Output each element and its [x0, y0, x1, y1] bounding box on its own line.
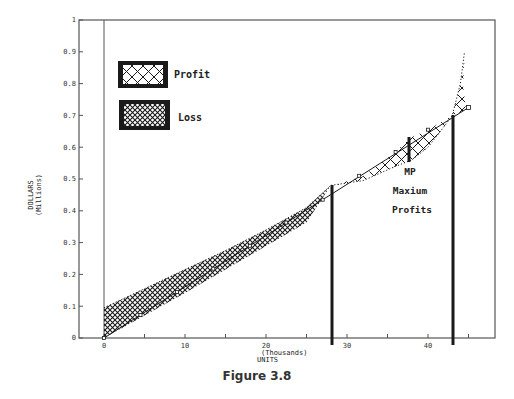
y-tick-label: 0.2 — [63, 271, 76, 279]
svg-text:(Millions): (Millions) — [35, 174, 43, 216]
y-tick-label: 0.9 — [63, 48, 76, 56]
legend-label-profit: Profit — [174, 69, 210, 80]
y-axis-title: DOLLARS (Millions) — [27, 174, 43, 216]
y-tick-label: 0.8 — [63, 80, 76, 88]
legend-item-loss: Loss — [119, 100, 202, 130]
y-tick-label: 0.7 — [63, 112, 76, 120]
y-axis: 0 0.1 0.2 0.3 0.4 0.5 0.6 0.7 0.8 0.9 1 — [63, 16, 83, 342]
x-tick-label: 10 — [181, 342, 189, 350]
cost-curve — [104, 52, 465, 308]
y-tick-label: 0.6 — [63, 144, 76, 152]
annotation-profits: Profits — [392, 204, 432, 215]
annotation-maxium: Maxium — [393, 185, 428, 196]
y-tick-label: 0.5 — [63, 175, 76, 183]
legend: Profit Loss — [118, 61, 210, 130]
y-tick-label: 1 — [72, 16, 76, 24]
loss-region — [104, 185, 331, 338]
y-tick-label: 0.3 — [63, 239, 76, 247]
legend-item-profit: Profit — [118, 61, 210, 88]
chart: 0 0.1 0.2 0.3 0.4 0.5 0.6 0.7 0.8 0.9 1 … — [0, 0, 514, 399]
svg-text:DOLLARS: DOLLARS — [27, 180, 35, 210]
x-tick-label: 30 — [343, 342, 351, 350]
legend-label-loss: Loss — [178, 112, 202, 123]
y-tick-label: 0.4 — [63, 207, 76, 215]
x-tick-label: 0 — [102, 342, 106, 350]
x-axis-title: UNITS — [257, 356, 278, 364]
x-tick-label: 40 — [424, 342, 432, 350]
annotation-mp: MP — [404, 166, 416, 177]
figure-caption: Figure 3.8 — [0, 369, 514, 383]
y-tick-label: 0.1 — [63, 303, 76, 311]
profit-region — [331, 115, 452, 186]
y-tick-label: 0 — [72, 334, 76, 342]
